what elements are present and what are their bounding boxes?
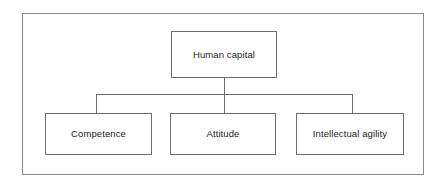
- node-competence: Competence: [45, 113, 152, 155]
- node-human-capital-label: Human capital: [193, 50, 255, 60]
- connector-horizontal-bus: [96, 94, 353, 95]
- node-human-capital: Human capital: [171, 31, 277, 78]
- connector-root-stem: [224, 78, 225, 113]
- node-intellectual-agility-label: Intellectual agility: [313, 129, 387, 139]
- node-attitude-label: Attitude: [206, 129, 239, 139]
- node-competence-label: Competence: [71, 129, 126, 139]
- connector-drop-intellectual-agility: [352, 94, 353, 113]
- connector-drop-competence: [96, 94, 97, 113]
- node-intellectual-agility: Intellectual agility: [296, 113, 404, 155]
- node-attitude: Attitude: [170, 113, 276, 155]
- diagram-canvas: Human capital Competence Attitude Intell…: [0, 0, 445, 187]
